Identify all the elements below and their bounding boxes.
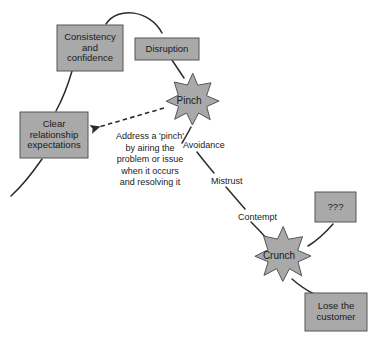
edge-disruption-to-pinch [172,60,184,78]
box-consistency-shape [57,25,123,71]
edge-mistrust-to-contempt [226,187,245,209]
star-pinch-shape [166,73,219,125]
edge-label-mistrust: Mistrust [211,176,243,186]
edge-pinch-advice-arrow [92,108,164,129]
edge-crunch-to-lose-customer [292,279,314,294]
box-disruption-shape [135,38,199,60]
edge-clear-expectations-tail [11,159,42,196]
edge-consistency-to-clear-expectations [56,71,72,111]
edge-unknown-to-crunch [308,224,333,246]
box-clear-expectations-shape [20,112,88,158]
diagram-canvas: Consistency and confidence Disruption Cl… [0,0,378,341]
box-lose-customer-shape [305,293,367,331]
box-unknown-shape [315,192,356,222]
edge-label-contempt: Contempt [238,212,277,222]
pinch-advice-note: Address a 'pinch' by airing the problem … [98,131,202,189]
